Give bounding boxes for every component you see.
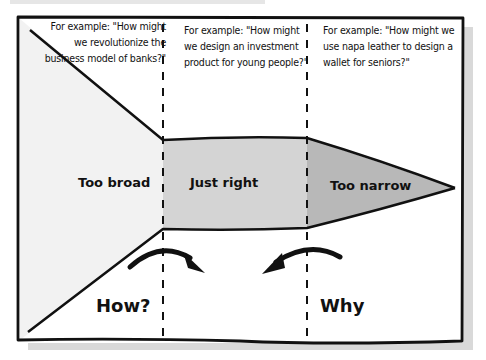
example-just-right: For example: "How might we design an inv…	[184, 22, 312, 70]
zone-label-too-broad: Too broad	[78, 175, 150, 190]
example-too-narrow: For example: "How might we use napa leat…	[323, 22, 463, 70]
zone-label-just-right: Just right	[190, 175, 258, 190]
zone-label-too-narrow: Too narrow	[330, 178, 411, 193]
why-arrow-icon	[262, 250, 340, 274]
why-label: Why	[320, 295, 364, 316]
how-arrow-icon	[130, 251, 205, 273]
how-label: How?	[96, 295, 151, 316]
example-too-broad: For example: "How might we revolutionize…	[40, 18, 166, 66]
